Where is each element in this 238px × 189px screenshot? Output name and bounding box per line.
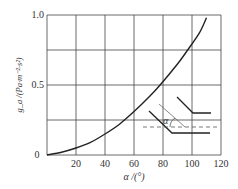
- x-tick-label: 80: [158, 158, 168, 169]
- x-tick-label: 20: [71, 158, 81, 169]
- series-line-g-a: [47, 18, 207, 155]
- x-tick-label: 120: [214, 158, 229, 169]
- x-axis-label: α /(°): [123, 171, 145, 183]
- inset-angle-arc: [170, 118, 175, 127]
- y-tick-label: 1.0: [32, 9, 45, 20]
- x-tick-label: 100: [185, 158, 200, 169]
- inset-alpha-label: α: [163, 115, 169, 126]
- inset-diagram: α: [143, 97, 218, 133]
- grid: [47, 15, 221, 155]
- inset-upper-wall: [177, 97, 211, 113]
- x-tick-label: 60: [129, 158, 139, 169]
- chart: 0204060801001200.51.0 α α /(°) g_a /(Pa·…: [0, 0, 238, 189]
- x-tick-label: 0: [35, 149, 40, 160]
- x-tick-label: 40: [100, 158, 110, 169]
- y-tick-label: 0.5: [32, 79, 45, 90]
- y-axis-label: g_a /(Pa·m⁻²·s²): [14, 57, 24, 112]
